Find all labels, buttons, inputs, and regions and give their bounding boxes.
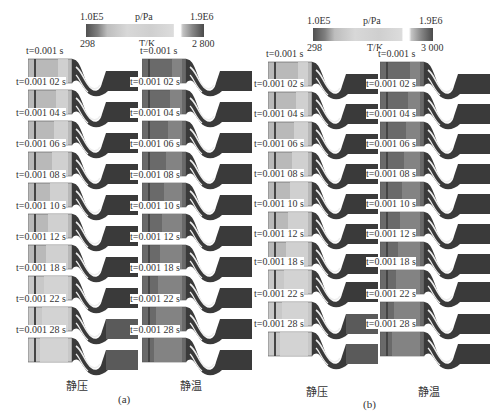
pressure-max-label: 1.9E6 [419,16,443,26]
time-label: t=0.001 12 s [254,229,304,239]
temperature-max-label: 3 000 [421,43,444,53]
time-label: t=0.001 02 s [254,79,304,89]
time-label: t=0.001 02 s [366,79,416,89]
time-label: t=0.001 06 s [366,139,416,149]
pressure-min-label: 1.0E5 [307,16,331,26]
simulation-frame [268,330,378,370]
static-temperature-caption: 静温 [418,383,440,399]
time-label: t=0.001 22 s [254,289,304,299]
time-label: t=0.001 12 s [366,229,416,239]
time-label: t=0.001 28 s [254,319,304,329]
time-label: t=0.001 18 s [366,257,416,267]
static-pressure-caption: 静压 [306,383,328,399]
temperature-min-label: 298 [307,43,322,53]
time-label: t=0.001 10 s [366,199,416,209]
time-label: t=0.001 08 s [254,169,304,179]
time-label: t=0.001 04 s [366,109,416,119]
time-label: t=0.001 28 s [366,319,416,329]
time-label: t=0.001 04 s [254,109,304,119]
simulation-frame [380,330,490,370]
time-label: t=0.001 06 s [254,139,304,149]
time-label: t=0.001 18 s [254,257,304,267]
pressure-title: p/Pa [363,16,381,26]
panel-label: (b) [363,398,376,410]
time-label: t=0.001 22 s [366,289,416,299]
time-label: t=0.001 s [378,49,415,59]
time-label: t=0.001 08 s [366,169,416,179]
time-label: t=0.001 10 s [254,199,304,209]
time-label: t=0.001 s [266,49,303,59]
colorbar [313,28,433,41]
